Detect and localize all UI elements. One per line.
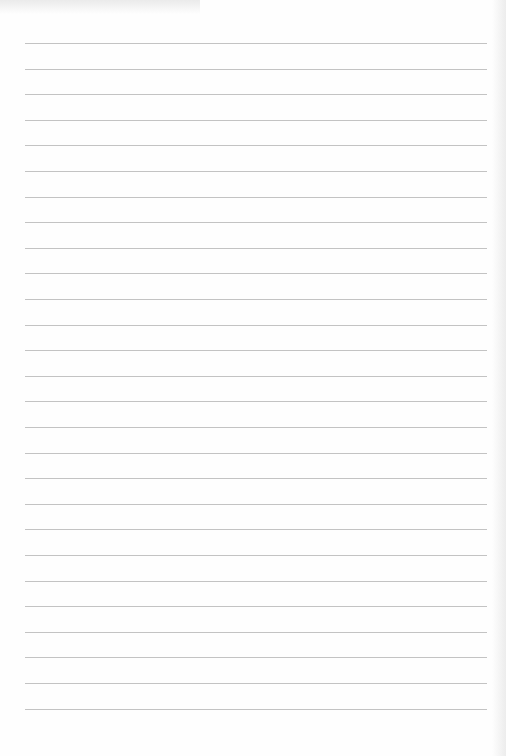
ruled-line bbox=[25, 325, 487, 326]
ruled-line bbox=[25, 248, 487, 249]
ruled-line bbox=[25, 529, 487, 530]
ruled-line bbox=[25, 709, 487, 710]
ruled-line bbox=[25, 94, 487, 95]
ruled-line bbox=[25, 120, 487, 121]
ruled-line bbox=[25, 145, 487, 146]
ruled-line bbox=[25, 683, 487, 684]
ruled-line bbox=[25, 555, 487, 556]
ruled-line bbox=[25, 453, 487, 454]
ruled-line bbox=[25, 273, 487, 274]
ruled-line bbox=[25, 222, 487, 223]
page-edge-shadow bbox=[492, 0, 506, 756]
ruled-line bbox=[25, 69, 487, 70]
lined-paper-page bbox=[0, 0, 506, 756]
ruled-line bbox=[25, 376, 487, 377]
ruled-line bbox=[25, 606, 487, 607]
ruled-line bbox=[25, 427, 487, 428]
ruled-line bbox=[25, 478, 487, 479]
ruled-line bbox=[25, 197, 487, 198]
ruled-line bbox=[25, 350, 487, 351]
ruled-line bbox=[25, 581, 487, 582]
ruled-line bbox=[25, 504, 487, 505]
ruled-line bbox=[25, 657, 487, 658]
ruled-line bbox=[25, 171, 487, 172]
ruled-line bbox=[25, 401, 487, 402]
ruled-line bbox=[25, 299, 487, 300]
scan-smudge bbox=[0, 0, 200, 14]
ruled-line bbox=[25, 43, 487, 44]
ruled-line bbox=[25, 632, 487, 633]
